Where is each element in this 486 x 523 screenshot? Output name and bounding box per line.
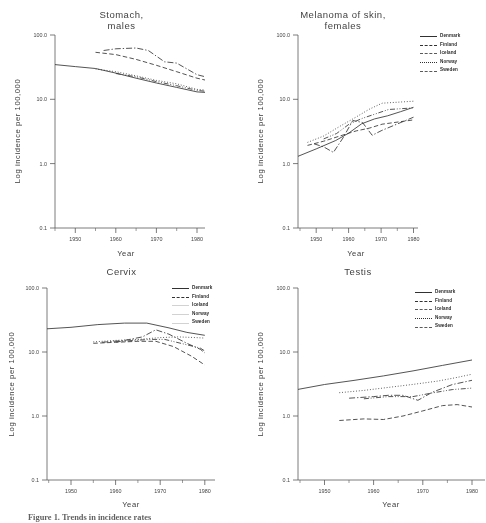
legend-line-icon [415, 316, 432, 321]
ytick-label: 0.1 [32, 477, 40, 483]
legend-item-denmark: Denmark [172, 284, 212, 293]
xtick-label: 1970 [417, 488, 429, 494]
legend-line-icon [420, 68, 437, 73]
ytick-label: 1.0 [283, 413, 291, 419]
xtick-label: 1960 [110, 488, 122, 494]
figure-caption: Figure 1. Trends in incidence rates [28, 513, 151, 523]
legend-item-finland: Finland [420, 41, 460, 50]
axes-stomach: 100.0 10.0 1.0 0.1 1950 1960 1970 1980 Y… [13, 32, 205, 258]
legend-label: Iceland [192, 301, 209, 310]
legend-label: Sweden [440, 66, 458, 75]
xtick-label: 1960 [368, 488, 380, 494]
legend-line-icon [172, 303, 189, 308]
ytick-label: 10.0 [280, 349, 291, 355]
series-line-finland [93, 341, 205, 365]
legend-item-finland: Finland [415, 297, 455, 306]
legend-item-finland: Finland [172, 293, 212, 302]
legend-label: Finland [435, 297, 452, 306]
legend-item-iceland: Iceland [415, 305, 455, 314]
legend-item-iceland: Iceland [420, 49, 460, 58]
ytick-label: 10.0 [37, 96, 48, 102]
ytick-label: 100.0 [277, 285, 291, 291]
legend-item-sweden: Sweden [415, 322, 455, 331]
legend-label: Denmark [440, 32, 460, 41]
legend-item-sweden: Sweden [420, 66, 460, 75]
xtick-label: 1950 [310, 236, 322, 242]
legend-item-norway: Norway [420, 58, 460, 67]
legend-line-icon [172, 286, 189, 291]
legend-label: Norway [435, 314, 452, 323]
legend-label: Norway [440, 58, 457, 67]
xtick-label: 1980 [408, 236, 420, 242]
panel-melanoma: Melanoma of skin, females 100.0 10.0 1 [243, 0, 486, 262]
series-line-denmark [298, 107, 414, 156]
legend-line-icon [172, 312, 189, 317]
chart-stomach: 100.0 10.0 1.0 0.1 1950 1960 1970 1980 Y… [0, 0, 243, 262]
series-line-finland [96, 52, 206, 80]
y-axis-title: Log incidence per 100,000 [13, 79, 22, 184]
series-line-denmark [55, 65, 205, 93]
legend-item-norway: Norway [415, 314, 455, 323]
xtick-label: 1980 [199, 488, 211, 494]
xtick-label: 1980 [191, 236, 203, 242]
ytick-label: 1.0 [32, 413, 40, 419]
x-axis-title: Year [347, 249, 365, 258]
legend-line-icon [172, 320, 189, 325]
legend-melanoma: Denmark Finland Iceland Norway Sweden [420, 32, 460, 75]
ytick-label: 100.0 [34, 32, 48, 38]
series-line-sweden [364, 388, 472, 399]
legend-cervix: Denmark Finland Iceland Norway Sweden [172, 284, 212, 327]
y-axis-title: Log incidence per 100,000 [256, 332, 265, 437]
legend-line-icon [420, 51, 437, 56]
legend-label: Finland [192, 293, 209, 302]
legend-line-icon [420, 60, 437, 65]
ytick-label: 100.0 [26, 285, 40, 291]
xtick-label: 1980 [466, 488, 478, 494]
legend-line-icon [420, 42, 437, 47]
legend-line-icon [415, 324, 432, 329]
panel-testis: Testis 100.0 10.0 1.0 0.1 [243, 262, 486, 512]
series-line-finland [308, 120, 414, 145]
ytick-label: 10.0 [29, 349, 40, 355]
series-line-iceland [314, 117, 414, 152]
legend-label: Iceland [440, 49, 457, 58]
legend-label: Denmark [435, 288, 455, 297]
legend-label: Sweden [435, 322, 453, 331]
ytick-label: 10.0 [280, 96, 291, 102]
panel-cervix: Cervix 100.0 10.0 1.0 0.1 [0, 262, 243, 512]
xtick-label: 1970 [150, 236, 162, 242]
legend-line-icon [172, 294, 189, 299]
y-axis-title: Log incidence per 100,000 [256, 79, 265, 184]
xtick-label: 1960 [110, 236, 122, 242]
figure-canvas: Stomach, males 100.0 10.0 1.0 [0, 0, 486, 523]
legend-item-denmark: Denmark [415, 288, 455, 297]
legend-item-sweden: Sweden [172, 318, 212, 327]
y-axis-title: Log incidence per 100,000 [7, 332, 16, 437]
series-group-melanoma [298, 101, 414, 156]
ytick-label: 1.0 [283, 161, 291, 167]
legend-label: Denmark [192, 284, 212, 293]
panel-stomach: Stomach, males 100.0 10.0 1.0 [0, 0, 243, 262]
series-line-iceland [104, 48, 205, 77]
ytick-label: 0.1 [283, 477, 291, 483]
series-line-finland [339, 405, 472, 421]
series-group-testis [298, 360, 472, 421]
legend-testis: Denmark Finland Iceland Norway Sweden [415, 288, 455, 331]
legend-item-norway: Norway [172, 310, 212, 319]
x-axis-title: Year [382, 500, 400, 509]
legend-line-icon [415, 307, 432, 312]
xtick-label: 1970 [154, 488, 166, 494]
series-line-sweden [324, 108, 414, 139]
ytick-label: 0.1 [40, 225, 48, 231]
xtick-label: 1950 [69, 236, 81, 242]
legend-line-icon [420, 34, 437, 39]
legend-label: Norway [192, 310, 209, 319]
xtick-label: 1950 [319, 488, 331, 494]
xtick-label: 1970 [375, 236, 387, 242]
xtick-label: 1950 [65, 488, 77, 494]
legend-label: Finland [440, 41, 457, 50]
ytick-label: 1.0 [40, 161, 48, 167]
xtick-label: 1960 [343, 236, 355, 242]
ytick-label: 0.1 [283, 225, 291, 231]
legend-line-icon [415, 298, 432, 303]
